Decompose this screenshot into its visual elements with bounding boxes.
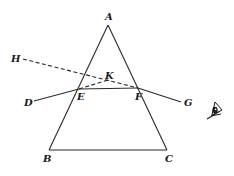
label-a: A xyxy=(104,11,113,22)
label-d: D xyxy=(23,97,33,108)
emergent-ray-fg xyxy=(138,88,181,102)
prism-diagram: A B C D E F G H K xyxy=(0,0,234,176)
refracted-ray-ef xyxy=(79,88,138,89)
label-e: E xyxy=(76,91,85,102)
label-h: H xyxy=(10,53,21,64)
label-g: G xyxy=(184,97,193,108)
prism-edge-ab xyxy=(49,25,108,150)
label-k: K xyxy=(104,70,115,81)
extension-line-ek xyxy=(79,80,108,89)
label-f: F xyxy=(134,91,143,102)
label-c: C xyxy=(165,153,173,164)
eye-icon xyxy=(207,102,222,119)
incident-ray-de xyxy=(34,89,79,101)
label-b: B xyxy=(42,153,51,164)
